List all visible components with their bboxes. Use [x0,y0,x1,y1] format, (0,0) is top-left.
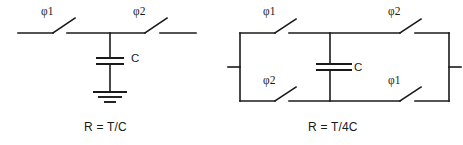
phi1-switch-blade[interactable] [53,18,75,33]
bottom-right-switch-label: φ1 [388,74,401,87]
phi2-switch-blade[interactable] [145,18,167,33]
bottom-left-switch-label: φ2 [263,74,276,87]
ground-icon [93,92,127,102]
top-left-switch-blade[interactable] [275,19,296,33]
parallel-switched-capacitor-circuit: φ1 φ2 φ2 φ1 C R = T/4C [228,5,461,134]
parallel-circuit-caption: R = T/4C [308,120,358,134]
phi1-switch-label: φ1 [41,5,54,18]
circuit-canvas: φ1 φ2 C R = T/C [0,0,463,145]
bottom-left-switch-blade[interactable] [275,87,296,101]
series-circuit-caption: R = T/C [84,120,127,134]
right-capacitor-label: C [354,61,362,73]
circuit-figure: φ1 φ2 C R = T/C [0,0,463,145]
top-left-switch-label: φ1 [263,5,276,18]
bottom-right-switch-blade[interactable] [400,87,421,101]
capacitor-label: C [131,52,139,64]
top-right-switch-blade[interactable] [400,19,421,33]
series-switched-capacitor-circuit: φ1 φ2 C R = T/C [18,5,196,134]
top-right-switch-label: φ2 [388,5,401,18]
phi2-switch-label: φ2 [133,5,146,18]
